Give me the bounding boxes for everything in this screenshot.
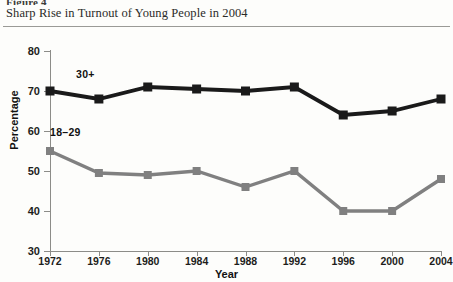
data-point-marker (143, 83, 152, 92)
data-point-marker (437, 175, 445, 183)
data-point-marker (192, 85, 201, 94)
series-line-30-plus (46, 83, 446, 120)
data-point-marker (241, 87, 250, 96)
series-line-18-29 (46, 147, 445, 215)
y-axis-title: Percentage (8, 60, 20, 180)
series-path (50, 151, 441, 211)
x-axis-title: Year (0, 268, 453, 280)
chart-plot-area: 304050607080 197219761980198419881992199… (0, 0, 453, 282)
data-point-marker (290, 83, 299, 92)
data-point-marker (46, 87, 55, 96)
data-point-marker (339, 207, 347, 215)
data-point-marker (94, 95, 103, 104)
data-point-marker (339, 111, 348, 120)
data-point-marker (290, 167, 298, 175)
data-point-marker (144, 171, 152, 179)
data-point-marker (388, 207, 396, 215)
data-point-marker (193, 167, 201, 175)
data-point-marker (437, 95, 446, 104)
series-label-30-plus: 30+ (76, 68, 95, 80)
series-layer (0, 0, 453, 282)
data-point-marker (388, 107, 397, 116)
series-label-18-29: 18–29 (50, 126, 81, 138)
data-point-marker (46, 147, 54, 155)
figure-container: Figure 4 Sharp Rise in Turnout of Young … (0, 0, 453, 282)
data-point-marker (95, 169, 103, 177)
data-point-marker (242, 183, 250, 191)
